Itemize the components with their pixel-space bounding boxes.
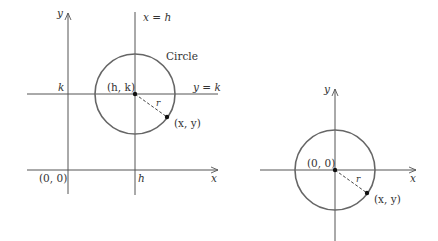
right-radius-line: [335, 170, 367, 193]
right-point-label: (x, y): [374, 193, 401, 205]
right-center-label: (0, 0): [307, 157, 335, 169]
diagram-canvas: y x x = h y = k Circle k h (0, 0) (h, k)…: [0, 0, 438, 241]
h-label: h: [138, 172, 145, 184]
vertical-line-label: x = h: [143, 11, 171, 23]
right-diagram: y x (0, 0) (x, y) r: [260, 83, 416, 241]
left-x-axis-label: x: [211, 172, 217, 184]
left-circle-point: [165, 115, 169, 119]
left-radius-label: r: [156, 98, 161, 108]
horizontal-line-label: y = k: [192, 81, 221, 93]
right-y-axis-label: y: [323, 83, 331, 95]
left-point-label: (x, y): [174, 117, 201, 129]
right-circle-point: [365, 191, 369, 195]
left-diagram: y x x = h y = k Circle k h (0, 0) (h, k)…: [27, 7, 221, 195]
circle-label: Circle: [166, 50, 198, 62]
left-center-label: (h, k): [107, 81, 135, 93]
right-radius-label: r: [356, 174, 361, 184]
left-origin-label: (0, 0): [39, 172, 67, 184]
k-label: k: [58, 81, 64, 93]
left-y-axis-label: y: [56, 7, 64, 19]
right-x-axis-label: x: [410, 172, 416, 184]
left-radius-line: [135, 94, 167, 117]
